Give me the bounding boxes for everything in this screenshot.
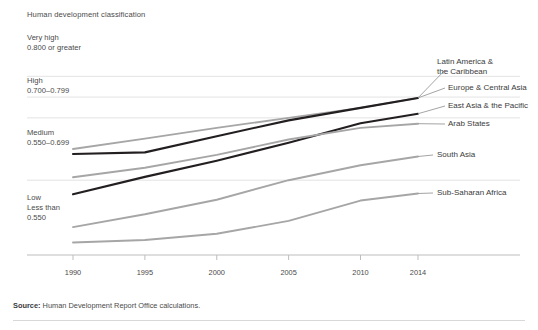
leader-line: [418, 106, 445, 114]
source-text: Human Development Report Office calculat…: [41, 301, 201, 310]
bottom-divider: [13, 320, 525, 321]
series-line-3: [73, 124, 418, 178]
series-group: [73, 98, 418, 243]
x-tick-label-2005: 2005: [280, 268, 296, 277]
source-note: Source: Human Development Report Office …: [13, 301, 200, 310]
x-tick-label-1995: 1995: [137, 268, 153, 277]
gridline-group: [27, 76, 520, 180]
leader-line-group: [418, 70, 445, 193]
x-tick-label-2014: 2014: [410, 268, 426, 277]
series-line-4: [73, 157, 418, 228]
series-label-sub-saharan-africa: Sub-Saharan Africa: [437, 188, 506, 198]
series-label-east-asia-pacific: East Asia & the Pacific: [448, 101, 528, 111]
series-label-europe-central-asia: Europe & Central Asia: [448, 83, 527, 93]
chart-plot-area: [0, 0, 538, 330]
series-label-latin-america: Latin America & the Caribbean: [437, 57, 493, 77]
series-line-2: [73, 114, 418, 195]
leader-line: [418, 88, 445, 98]
series-label-south-asia: South Asia: [437, 150, 475, 160]
series-label-line2: the Caribbean: [437, 67, 487, 76]
x-axis: [27, 255, 520, 260]
chart-page: Human development classification Very hi…: [0, 0, 538, 330]
series-line-0: [73, 98, 418, 149]
series-label-line1: Latin America &: [437, 57, 493, 66]
series-label-arab-states: Arab States: [448, 119, 490, 129]
x-tick-label-2010: 2010: [352, 268, 368, 277]
source-prefix: Source:: [13, 301, 41, 310]
series-line-1: [73, 98, 418, 154]
leader-line: [418, 155, 433, 157]
x-tick-label-2000: 2000: [209, 268, 225, 277]
x-tick-label-1990: 1990: [65, 268, 81, 277]
